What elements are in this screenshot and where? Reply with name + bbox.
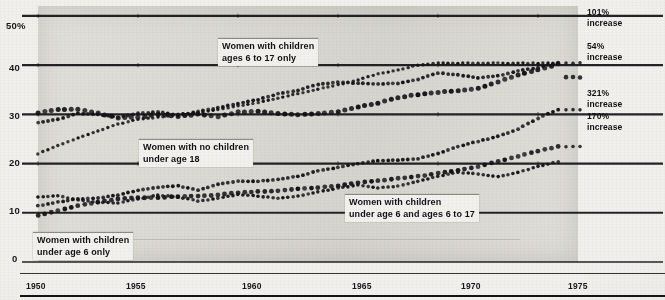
annotation-word: increase bbox=[587, 99, 622, 110]
y-tick-label-0: 0 bbox=[12, 253, 17, 264]
annotation-54-increase: 54% increase bbox=[587, 41, 622, 62]
annotation-170-increase: 170% increase bbox=[587, 111, 622, 132]
annotation-word: increase bbox=[587, 52, 622, 63]
callout-line-2: under age 18 bbox=[143, 154, 249, 166]
y-tick-label-40: 40 bbox=[9, 62, 20, 73]
annotation-value: 321% bbox=[587, 88, 622, 99]
annotation-321-increase: 321% increase bbox=[587, 88, 622, 109]
annotation-word: increase bbox=[587, 18, 622, 29]
callout-no-children: Women with no children under age 18 bbox=[139, 139, 253, 167]
axis-rule-bottom bbox=[20, 295, 665, 297]
callout-under-6-and-6-to-17: Women with children under age 6 and ages… bbox=[345, 194, 479, 222]
x-tick-label-1965: 1965 bbox=[352, 281, 372, 291]
chart-root: 50% 40 30 20 10 0 1950 1955 1960 1965 19… bbox=[0, 0, 665, 300]
callout-line-2: under age 6 and ages 6 to 17 bbox=[349, 209, 475, 221]
annotation-101-increase: 101% increase bbox=[587, 7, 622, 28]
callout-line-1: Women with no children bbox=[143, 142, 249, 154]
callout-line-2: ages 6 to 17 only bbox=[222, 53, 314, 65]
x-tick-label-1950: 1950 bbox=[26, 281, 46, 291]
x-tick-label-1955: 1955 bbox=[126, 281, 146, 291]
x-tick-label-1975: 1975 bbox=[568, 281, 588, 291]
annotation-value: 170% bbox=[587, 111, 622, 122]
callout-line-1: Women with children bbox=[349, 197, 475, 209]
callout-line-1: Women with children bbox=[37, 235, 129, 247]
axis-rule-top bbox=[20, 273, 665, 274]
y-tick-label-50: 50% bbox=[6, 20, 26, 31]
annotation-value: 101% bbox=[587, 7, 622, 18]
callout-children-6-to-17: Women with children ages 6 to 17 only bbox=[218, 38, 318, 66]
y-tick-label-20: 20 bbox=[9, 157, 20, 168]
annotation-word: increase bbox=[587, 122, 622, 133]
x-tick-label-1970: 1970 bbox=[461, 281, 481, 291]
y-tick-label-30: 30 bbox=[9, 110, 20, 121]
callout-line-1: Women with children bbox=[222, 41, 314, 53]
x-tick-label-1960: 1960 bbox=[242, 281, 262, 291]
annotation-value: 54% bbox=[587, 41, 622, 52]
callout-line-2: under age 6 only bbox=[37, 247, 129, 259]
y-tick-label-10: 10 bbox=[9, 205, 20, 216]
callout-under-6-only: Women with children under age 6 only bbox=[33, 232, 133, 260]
